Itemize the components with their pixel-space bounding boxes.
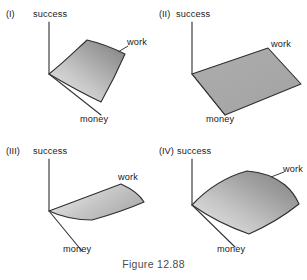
figure-container: (I) success money work (II) success mone…: [0, 0, 307, 280]
surface-plot-4: [153, 127, 306, 252]
panel-roman-4: (IV): [159, 147, 174, 156]
axis-label-money-3: money: [63, 245, 91, 254]
axis-label-success-3: success: [33, 147, 67, 156]
axis-label-money-1: money: [80, 115, 108, 124]
axis-label-work-3: work: [118, 173, 138, 182]
surface-panel-3: (III) success money work: [0, 127, 153, 252]
axis-label-money-2: money: [206, 115, 234, 124]
axis-label-success-2: success: [176, 10, 210, 19]
surface-panel-1: (I) success money work: [0, 2, 153, 127]
axis-label-success-4: success: [177, 147, 211, 156]
panel-roman-2: (II): [159, 10, 170, 19]
axis-label-work-2: work: [271, 40, 291, 49]
surface-panel-4: (IV) success money work: [153, 127, 306, 252]
axis-label-money-4: money: [217, 245, 245, 254]
surface-plot-3: [0, 127, 153, 252]
panel-roman-3: (III): [6, 147, 20, 156]
figure-caption: Figure 12.88: [0, 258, 307, 270]
surface-plot-1: [0, 2, 153, 127]
surface-sheet-4: [192, 171, 299, 234]
axis-label-work-4: work: [283, 165, 303, 174]
surface-sheet-3: [49, 184, 144, 220]
panel-roman-1: (I): [6, 10, 15, 19]
surface-sheet-2: [192, 48, 301, 115]
surface-plot-2: [153, 2, 306, 127]
axis-label-success-1: success: [33, 10, 67, 19]
surface-panel-2: (II) success money work: [153, 2, 306, 127]
axis-label-work-1: work: [127, 38, 147, 47]
